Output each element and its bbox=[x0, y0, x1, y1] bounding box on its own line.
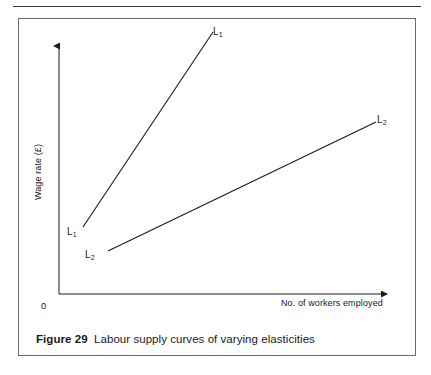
figure-box: Wage rate (£) No. of workers employed 0 … bbox=[18, 18, 416, 356]
curve-label-l2-end-letter: L bbox=[377, 114, 383, 125]
chart-plot-area: Wage rate (£) No. of workers employed 0 … bbox=[19, 19, 417, 309]
chart-svg bbox=[19, 19, 417, 309]
figure-caption-title: Labour supply curves of varying elastici… bbox=[94, 333, 315, 345]
figure-caption-number: Figure 29 bbox=[36, 333, 88, 345]
curve-label-l2-end-sub: 2 bbox=[383, 119, 387, 126]
supply-curve-l1 bbox=[83, 32, 213, 227]
curve-label-l2-start-sub: 2 bbox=[91, 254, 95, 261]
supply-curve-l2 bbox=[108, 122, 376, 251]
curve-label-l2-end: L2 bbox=[377, 115, 386, 125]
curve-label-l2-start: L2 bbox=[85, 250, 94, 260]
curve-label-l1-start-letter: L bbox=[67, 226, 73, 237]
curve-label-l1-end-sub: 1 bbox=[219, 31, 223, 38]
origin-label: 0 bbox=[41, 300, 46, 311]
figure-caption: Figure 29 Labour supply curves of varyin… bbox=[36, 333, 315, 345]
curve-label-l1-end-letter: L bbox=[213, 26, 219, 37]
figure-caption-text: Labour supply curves of varying elastici… bbox=[88, 333, 315, 345]
curve-label-l1-end: L1 bbox=[213, 27, 222, 37]
page-header-rule bbox=[13, 6, 421, 7]
curve-label-l2-start-letter: L bbox=[85, 249, 91, 260]
x-axis-label: No. of workers employed bbox=[281, 298, 383, 308]
y-axis-label: Wage rate (£) bbox=[33, 122, 43, 222]
curve-label-l1-start: L1 bbox=[67, 227, 76, 237]
curve-label-l1-start-sub: 1 bbox=[73, 231, 77, 238]
